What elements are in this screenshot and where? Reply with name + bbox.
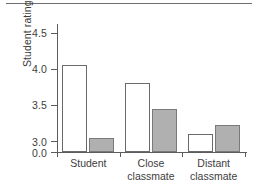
bar-filled-3 xyxy=(215,125,240,152)
y-axis-tick-label: 4.5 xyxy=(32,27,47,39)
x-axis-category-label: Distant classmate xyxy=(182,157,245,182)
y-axis-label: Student ratings xyxy=(21,0,35,95)
bar-filled-1 xyxy=(89,138,114,152)
y-axis-tick-label: 3.0 xyxy=(32,136,47,148)
bar-open-1 xyxy=(62,65,87,152)
top-horizontal-rule xyxy=(6,3,252,4)
bar-open-2 xyxy=(125,83,150,152)
figure-container: Student ratings 0.03.03.54.04.5 StudentC… xyxy=(0,0,256,195)
y-axis-tick-label: 0.0 xyxy=(32,147,47,159)
bar-open-3 xyxy=(188,134,213,152)
x-axis-line xyxy=(57,152,247,153)
x-axis-category-label: Close classmate xyxy=(120,157,183,182)
y-axis-tick-label: 4.0 xyxy=(32,63,47,75)
y-axis-tick-label: 3.5 xyxy=(32,99,47,111)
x-axis-tick xyxy=(245,152,246,157)
plot-area xyxy=(57,24,245,152)
x-axis-category-label: Student xyxy=(57,157,120,170)
bar-filled-2 xyxy=(152,109,177,152)
